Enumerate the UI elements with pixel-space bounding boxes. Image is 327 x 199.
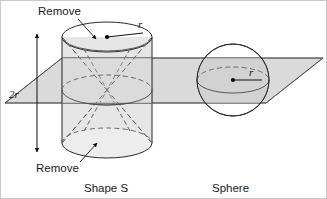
caption-shape-s: Shape S bbox=[84, 182, 128, 194]
remove-bottom-label: Remove bbox=[36, 162, 79, 174]
remove-top-label: Remove bbox=[38, 5, 81, 17]
cylinder-radius-label: r bbox=[138, 18, 143, 30]
cutting-plane bbox=[5, 58, 323, 103]
cutting-plane-group bbox=[5, 58, 323, 103]
remove-top-callout: Remove bbox=[38, 5, 96, 39]
sphere-radius-label: r bbox=[249, 66, 254, 78]
height-dimension-label: 2r bbox=[9, 88, 20, 100]
cylinder-radius-line bbox=[107, 33, 143, 37]
remove-top-leader bbox=[78, 19, 96, 39]
figure-root: r bbox=[0, 0, 327, 199]
geometry-diagram: r bbox=[0, 0, 327, 199]
cylinder-center-dot bbox=[105, 35, 109, 39]
caption-sphere: Sphere bbox=[212, 182, 249, 194]
cylinder-plane-overlap-fill bbox=[62, 58, 152, 103]
sphere-center-dot bbox=[231, 78, 235, 82]
